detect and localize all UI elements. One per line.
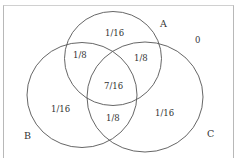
- venn-diagram: A B C 0 1/16 1/8 1/8 7/16 1/16 1/8 1/16: [0, 0, 236, 158]
- region-ac: 1/8: [134, 53, 148, 63]
- set-label-b: B: [24, 130, 31, 141]
- region-c-only: 1/16: [155, 108, 174, 118]
- region-ab: 1/8: [73, 50, 87, 60]
- set-label-a: A: [159, 18, 167, 29]
- region-abc: 7/16: [104, 81, 123, 91]
- region-a-only: 1/16: [105, 28, 124, 38]
- set-label-c: C: [207, 128, 214, 139]
- region-b-only: 1/16: [51, 104, 70, 114]
- region-outside: 0: [195, 35, 200, 45]
- region-bc: 1/8: [106, 113, 120, 123]
